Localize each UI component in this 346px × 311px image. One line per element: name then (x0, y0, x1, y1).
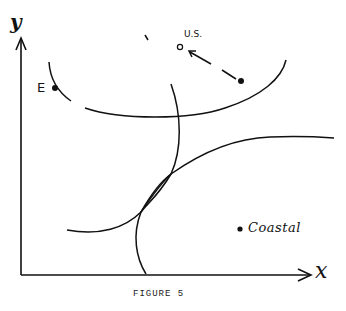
vertical-curve (136, 84, 179, 274)
movement-arrow (189, 51, 236, 79)
x-axis (21, 269, 311, 281)
y-axis (16, 38, 26, 275)
point-start (238, 78, 244, 84)
figure-caption: FIGURE 5 (133, 289, 184, 299)
point-us-label: U.S. (184, 29, 202, 39)
point-e (52, 85, 58, 91)
y-axis-label: y (10, 10, 22, 34)
upper-u-curve (49, 35, 286, 117)
x-axis-label: x (315, 258, 327, 283)
point-coastal (237, 226, 242, 231)
point-us (177, 44, 182, 49)
point-e-label: E (37, 80, 45, 95)
diagram-canvas (0, 0, 346, 311)
point-coastal-label: Coastal (248, 220, 301, 235)
lower-rising-curve (67, 137, 334, 232)
